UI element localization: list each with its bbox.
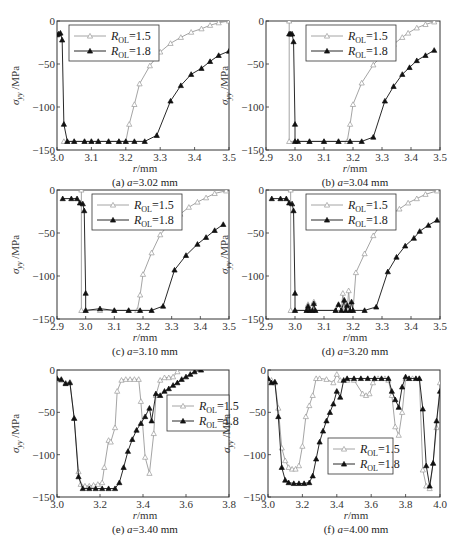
x-tick-label: 3.4 — [404, 320, 418, 332]
filled-triangle-marker — [168, 98, 173, 103]
filled-triangle-marker — [221, 222, 226, 227]
filled-triangle-marker — [317, 439, 322, 444]
open-triangle-marker — [132, 102, 137, 107]
filled-triangle-marker — [324, 418, 329, 423]
filled-triangle-marker — [434, 418, 439, 423]
filled-triangle-marker — [400, 384, 405, 389]
y-tick-label: −100 — [32, 270, 55, 282]
open-triangle-marker — [406, 30, 411, 35]
caption-a: (a) a=3.02 mm — [45, 176, 245, 188]
open-triangle-marker — [138, 399, 143, 404]
filled-triangle-marker — [334, 389, 339, 394]
filled-triangle-marker — [385, 269, 390, 274]
filled-triangle-marker — [82, 208, 87, 213]
y-tick-label: −100 — [32, 101, 55, 113]
legend-label: ROL=1.5 — [347, 198, 388, 214]
x-tick-label: 3.2 — [296, 498, 310, 510]
filled-triangle-marker — [283, 477, 288, 482]
open-triangle-marker — [340, 291, 345, 296]
x-tick-label: 3.3 — [375, 151, 389, 163]
x-tick-label: 3.8 — [222, 498, 236, 510]
legend-label: ROL=1.8 — [110, 44, 151, 60]
filled-triangle-marker — [134, 428, 139, 433]
filled-triangle-marker — [121, 465, 126, 470]
filled-triangle-marker — [414, 58, 419, 63]
filled-triangle-marker — [431, 461, 436, 466]
filled-triangle-marker — [54, 376, 59, 381]
x-tick-label: 3.1 — [85, 151, 99, 163]
legend: ROL=1.5ROL=1.8 — [328, 438, 400, 474]
y-axis-label: σyy /MPa — [218, 235, 233, 274]
filled-triangle-marker — [314, 456, 319, 461]
filled-triangle-marker — [226, 49, 231, 54]
open-triangle-marker — [147, 471, 152, 476]
y-tick-label: −100 — [243, 449, 266, 461]
filled-triangle-marker — [189, 72, 194, 77]
open-triangle-marker — [350, 102, 355, 107]
filled-triangle-marker — [307, 480, 312, 485]
y-axis-label: σyy /MPa — [218, 66, 233, 105]
x-tick-label: 3.0 — [288, 320, 302, 332]
x-tick-label: 4.0 — [433, 498, 447, 510]
filled-triangle-marker — [125, 449, 130, 454]
x-axis-label: r/mm — [343, 331, 368, 343]
chart-panel-e: 0−50−100−1503.03.23.43.63.8r/mmσyy /MPaR… — [9, 364, 239, 521]
filled-triangle-marker — [97, 306, 102, 311]
open-triangle-marker — [307, 403, 312, 408]
open-triangle-marker — [296, 463, 301, 468]
y-tick-label: −50 — [247, 58, 265, 70]
filled-triangle-marker — [432, 48, 437, 53]
legend: ROL=1.5ROL=1.8 — [306, 25, 396, 61]
filled-triangle-marker — [60, 37, 65, 42]
filled-triangle-marker — [130, 437, 135, 442]
legend: ROL=1.5ROL=1.8 — [92, 194, 182, 230]
open-triangle-marker — [115, 389, 120, 394]
filled-triangle-marker — [76, 474, 81, 479]
chart-panel-b: 0−50−100−1502.93.03.13.23.33.43.5r/mmσyy… — [218, 15, 447, 174]
filled-triangle-marker — [420, 406, 425, 411]
x-tick-label: 3.4 — [330, 498, 344, 510]
open-triangle-marker — [138, 292, 143, 297]
filled-triangle-marker — [216, 53, 221, 58]
legend-label: ROL=1.8 — [347, 213, 388, 229]
x-tick-label: 3.0 — [50, 498, 64, 510]
y-tick-label: −100 — [241, 270, 264, 282]
open-triangle-marker — [276, 406, 281, 411]
open-triangle-marker — [397, 206, 402, 211]
y-axis-label: σyy /MPa — [9, 66, 24, 105]
chart-panel-d: 0−50−100−1502.93.03.13.23.33.43.5r/mmσyy… — [218, 184, 447, 343]
filled-triangle-marker — [437, 389, 442, 394]
figure-canvas: 0−50−100−1503.03.13.23.33.43.5r/mmσyy /M… — [0, 0, 460, 555]
open-triangle-marker — [137, 81, 142, 86]
open-triangle-marker — [435, 188, 440, 193]
legend-label: ROL=1.5 — [359, 442, 400, 458]
filled-triangle-marker — [424, 463, 429, 468]
open-triangle-marker — [140, 272, 145, 277]
x-tick-label: 3.0 — [79, 320, 93, 332]
legend-label: ROL=1.8 — [347, 44, 388, 60]
open-triangle-marker — [143, 455, 148, 460]
caption-d: (d) a=3.20 mm — [255, 345, 455, 357]
y-tick-label: 0 — [261, 364, 267, 376]
filled-triangle-marker — [61, 122, 66, 127]
open-triangle-marker — [437, 380, 442, 385]
x-axis-label: r/mm — [133, 509, 158, 521]
y-axis-label: σyy /MPa — [9, 414, 24, 453]
open-triangle-marker — [203, 195, 208, 200]
x-tick-label: 2.9 — [50, 320, 64, 332]
x-tick-label: 3.5 — [222, 320, 236, 332]
chart-panel-c: 0−50−100−1502.93.03.13.23.33.43.5r/mmσyy… — [9, 184, 236, 343]
open-triangle-marker — [331, 380, 336, 385]
filled-triangle-marker — [265, 376, 270, 381]
open-triangle-marker — [367, 391, 372, 396]
x-tick-label: 3.5 — [433, 320, 447, 332]
x-tick-label: 3.3 — [375, 320, 389, 332]
filled-triangle-marker — [331, 401, 336, 406]
x-tick-label: 3.8 — [399, 498, 413, 510]
open-triangle-marker — [127, 122, 132, 127]
x-tick-label: 3.5 — [433, 151, 447, 163]
open-triangle-marker — [348, 122, 353, 127]
filled-triangle-marker — [382, 98, 387, 103]
x-tick-label: 3.1 — [107, 320, 121, 332]
filled-triangle-marker — [153, 391, 158, 396]
